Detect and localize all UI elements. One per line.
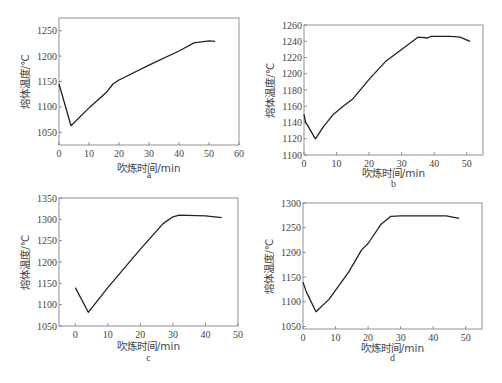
chart-panel-a: 010203040506010501100115012001250吹炼时间/mi… xyxy=(19,18,244,180)
y-tick-label: 1100 xyxy=(37,101,57,112)
x-tick-label: 10 xyxy=(332,158,342,169)
chart-panel-d: 01020304050105011001150120012501300吹炼时间/… xyxy=(263,198,482,364)
y-tick-label: 1100 xyxy=(37,299,57,310)
x-tick-label: 40 xyxy=(429,158,439,169)
plot-frame xyxy=(304,25,483,155)
y-axis-label: 熔体温度/℃ xyxy=(263,238,275,293)
x-tick-label: 60 xyxy=(234,148,244,159)
x-tick-label: 0 xyxy=(301,332,306,343)
y-tick-label: 1200 xyxy=(37,51,57,62)
x-tick-label: 0 xyxy=(302,158,307,169)
y-tick-label: 1200 xyxy=(37,257,57,268)
y-axis-label: 熔体温度/℃ xyxy=(19,54,31,109)
panel-caption: d xyxy=(390,352,395,363)
x-tick-label: 30 xyxy=(168,329,178,340)
y-tick-label: 1250 xyxy=(37,235,57,246)
panel-caption: c xyxy=(146,352,151,363)
figure-canvas: 010203040506010501100115012001250吹炼时间/mi… xyxy=(0,0,502,383)
y-tick-label: 1160 xyxy=(282,101,302,112)
y-tick-label: 1150 xyxy=(37,76,57,87)
x-tick-label: 20 xyxy=(135,329,145,340)
y-tick-label: 1180 xyxy=(282,85,302,96)
y-tick-label: 1250 xyxy=(281,222,301,233)
y-tick-label: 1350 xyxy=(37,193,57,204)
y-tick-label: 1100 xyxy=(281,296,301,307)
y-tick-label: 1150 xyxy=(37,278,57,289)
x-tick-label: 0 xyxy=(57,148,62,159)
x-tick-label: 10 xyxy=(331,332,341,343)
chart-panel-c: 010203040501050110011501200125013001350吹… xyxy=(19,193,243,364)
y-tick-label: 1200 xyxy=(282,68,302,79)
y-tick-label: 1200 xyxy=(281,247,301,258)
chart-panel-b: 0102030405011001120114011601180120012201… xyxy=(264,20,483,190)
x-tick-label: 10 xyxy=(84,148,94,159)
y-tick-label: 1260 xyxy=(282,20,302,31)
x-tick-label: 40 xyxy=(174,148,184,159)
panel-caption: a xyxy=(147,169,152,180)
x-axis-label: 吹炼时间/min xyxy=(117,340,180,352)
y-tick-label: 1220 xyxy=(282,52,302,63)
temperature-series-line xyxy=(304,36,470,138)
y-tick-label: 1300 xyxy=(37,214,57,225)
plot-frame xyxy=(303,203,482,329)
plot-frame xyxy=(59,18,239,145)
x-tick-label: 10 xyxy=(103,329,113,340)
x-tick-label: 40 xyxy=(428,332,438,343)
x-tick-label: 20 xyxy=(114,148,124,159)
y-tick-label: 1250 xyxy=(37,25,57,36)
x-tick-label: 40 xyxy=(200,329,210,340)
x-tick-label: 50 xyxy=(204,148,214,159)
y-tick-label: 1140 xyxy=(282,117,302,128)
x-tick-label: 30 xyxy=(144,148,154,159)
temperature-series-line xyxy=(303,216,459,312)
y-tick-label: 1050 xyxy=(37,127,57,138)
y-tick-label: 1240 xyxy=(282,36,302,47)
x-tick-label: 50 xyxy=(461,332,471,343)
y-tick-label: 1050 xyxy=(281,321,301,332)
temperature-series-line xyxy=(59,41,215,126)
x-tick-label: 50 xyxy=(462,158,472,169)
y-axis-label: 熔体温度/℃ xyxy=(19,234,31,289)
y-tick-label: 1100 xyxy=(282,150,302,161)
temperature-series-line xyxy=(75,215,221,312)
y-axis-label: 熔体温度/℃ xyxy=(264,62,276,117)
y-tick-label: 1150 xyxy=(281,272,301,283)
y-tick-label: 1300 xyxy=(281,198,301,209)
y-tick-label: 1120 xyxy=(282,133,302,144)
panel-caption: b xyxy=(391,178,396,189)
x-tick-label: 0 xyxy=(73,329,78,340)
x-tick-label: 50 xyxy=(233,329,243,340)
y-tick-label: 1050 xyxy=(37,321,57,332)
